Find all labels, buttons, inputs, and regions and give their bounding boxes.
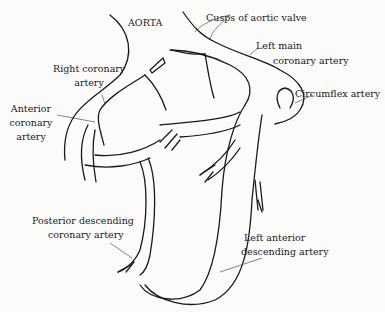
label-cusps-of-aortic-valve: Cusps of aortic valve [206,12,307,23]
label-anterior-coronary-line3: artery [8,131,54,142]
coronary-artery-diagram: AORTA Cusps of aortic valve Left main co… [0,0,385,312]
label-lad-line1: Left anterior [244,232,305,243]
circumflex-loop [277,88,293,108]
label-anterior-coronary-line1: Anterior [8,103,54,114]
artery-drawing [0,0,385,312]
label-posterior-descending-line1: Posterior descending [32,215,134,226]
label-left-main-line1: Left main [256,40,302,51]
label-lad-line2: descending artery [241,246,329,257]
label-right-coronary-line2: artery [53,77,125,88]
label-circumflex-artery: Circumflex artery [295,88,380,99]
label-aorta: AORTA [128,17,162,28]
label-posterior-descending-line2: coronary artery [48,229,124,240]
label-left-main-line2: coronary artery [273,55,349,66]
cusp-right [150,58,165,73]
cusp-left [172,50,205,54]
label-right-coronary-line1: Right coronary [53,63,125,74]
label-anterior-coronary-line2: coronary [8,117,54,128]
